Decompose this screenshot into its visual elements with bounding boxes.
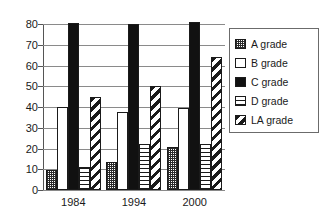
legend-item-label: LA grade	[251, 114, 293, 126]
y-axis-tick-label: 10	[4, 164, 38, 175]
chart-legend: A gradeB gradeC gradeD gradeLA grade	[229, 28, 319, 133]
plot-bars	[43, 20, 225, 191]
legend-item-label: A grade	[251, 38, 287, 50]
bar-la-grade-2000	[211, 57, 222, 190]
x-axis-tick-label-1994: 1994	[111, 196, 157, 208]
bar-d-grade-1994	[139, 144, 150, 190]
bar-a-grade-1994	[106, 162, 117, 190]
legend-item-label: B grade	[251, 57, 288, 69]
y-axis-tick-label: 40	[4, 102, 38, 113]
legend-item-a-grade: A grade	[235, 34, 318, 53]
legend-swatch-icon	[235, 58, 246, 68]
y-axis-tick-label: 20	[4, 144, 38, 155]
legend-item-la-grade: LA grade	[235, 110, 318, 129]
bar-c-grade-1994	[128, 24, 139, 190]
legend-swatch-icon	[235, 39, 246, 49]
bar-c-grade-1984	[68, 23, 79, 190]
bar-group-1994	[104, 21, 165, 191]
legend-item-label: D grade	[251, 95, 288, 107]
x-axis-tick-label-2000: 2000	[172, 196, 218, 208]
legend-swatch-icon	[235, 115, 246, 125]
legend-item-c-grade: C grade	[235, 72, 318, 91]
bar-a-grade-1984	[46, 170, 57, 190]
x-axis-tick-label-1984: 1984	[50, 196, 96, 208]
bar-group-2000	[164, 21, 225, 191]
y-axis-tick-label: 80	[4, 19, 38, 30]
bar-b-grade-1984	[57, 107, 68, 190]
legend-swatch-icon	[235, 96, 246, 106]
legend-item-b-grade: B grade	[235, 53, 318, 72]
y-axis-tick-label: 0	[4, 185, 38, 196]
bar-d-grade-2000	[200, 144, 211, 190]
bar-la-grade-1994	[150, 86, 161, 190]
bar-a-grade-2000	[167, 147, 178, 190]
y-axis-tick-label: 50	[4, 81, 38, 92]
y-axis-tick-label: 70	[4, 40, 38, 51]
legend-swatch-icon	[235, 77, 246, 87]
bar-d-grade-1984	[79, 167, 90, 190]
bar-group-1984	[43, 21, 104, 191]
legend-item-label: C grade	[251, 76, 288, 88]
bar-b-grade-1994	[117, 112, 128, 190]
bar-c-grade-2000	[189, 22, 200, 190]
bar-chart: 01020304050607080 198419942000 A gradeB …	[0, 0, 325, 217]
bar-la-grade-1984	[90, 97, 101, 190]
bar-b-grade-2000	[178, 108, 189, 190]
legend-item-d-grade: D grade	[235, 91, 318, 110]
y-axis-tick-label: 60	[4, 61, 38, 72]
y-axis-tick-label: 30	[4, 123, 38, 134]
